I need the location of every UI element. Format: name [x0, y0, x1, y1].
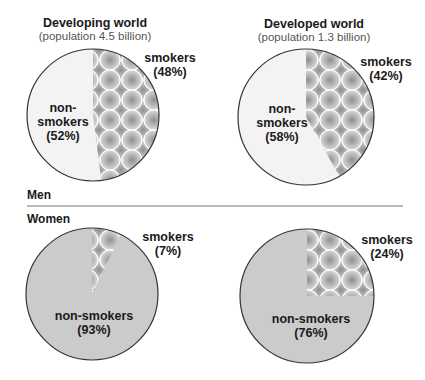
label-text: non- — [254, 102, 310, 116]
label-pct: (52%) — [36, 129, 90, 143]
label-pct: (58%) — [254, 130, 310, 144]
label-smokers-men-developed: smokers (42%) — [356, 55, 416, 83]
label-text: smokers — [138, 230, 198, 244]
label-text: non-smokers — [267, 312, 355, 326]
section-label-men: Men — [27, 188, 51, 202]
label-nonsmokers-women-developing: non-smokers (93%) — [50, 309, 138, 337]
section-label-women: Women — [27, 212, 70, 226]
pie-women-developed — [240, 229, 374, 363]
title-developed-world: Developed world — [214, 17, 414, 31]
title-developing-world: Developing world — [0, 16, 195, 30]
label-pct: (76%) — [267, 326, 355, 340]
label-nonsmokers-women-developed: non-smokers (76%) — [267, 312, 355, 340]
label-text: smokers — [254, 116, 310, 130]
label-text: non-smokers — [50, 309, 138, 323]
label-pct: (24%) — [357, 247, 417, 261]
label-nonsmokers-men-developed: non- smokers (58%) — [254, 102, 310, 144]
label-pct: (42%) — [356, 69, 416, 83]
subtitle-developing-population: (population 4.5 billion) — [0, 30, 195, 42]
label-text: non- — [36, 101, 90, 115]
label-smokers-women-developing: smokers (7%) — [138, 230, 198, 258]
label-pct: (93%) — [50, 323, 138, 337]
label-text: smokers — [357, 233, 417, 247]
label-pct: (48%) — [140, 65, 200, 79]
label-pct: (7%) — [138, 244, 198, 258]
label-nonsmokers-men-developing: non- smokers (52%) — [36, 101, 90, 143]
label-text: smokers — [140, 51, 200, 65]
label-smokers-men-developing: smokers (48%) — [140, 51, 200, 79]
label-smokers-women-developed: smokers (24%) — [357, 233, 417, 261]
label-text: smokers — [36, 115, 90, 129]
label-text: smokers — [356, 55, 416, 69]
subtitle-developed-population: (population 1.3 billion) — [214, 31, 414, 43]
